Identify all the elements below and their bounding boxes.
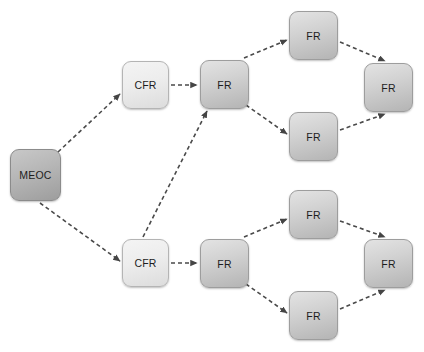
node-fr_b3[interactable]: FR <box>289 291 338 340</box>
edge-fr_t1-to-fr_t3 <box>246 105 287 134</box>
edge-fr_t2-to-fr_t4 <box>340 42 385 61</box>
node-fr_t4[interactable]: FR <box>364 63 413 112</box>
node-label: FR <box>381 82 395 94</box>
edge-fr_b1-to-fr_b2 <box>244 219 287 237</box>
node-fr_b1[interactable]: FR <box>200 239 249 288</box>
node-cfr_top[interactable]: CFR <box>122 61 169 109</box>
node-label: FR <box>217 79 231 91</box>
node-fr_t1[interactable]: FR <box>200 60 249 109</box>
node-label: MEOC <box>19 169 51 181</box>
node-label: FR <box>217 258 231 270</box>
edge-fr_t1-to-fr_t2 <box>244 40 287 58</box>
edge-meoc-to-cfr_bot <box>40 203 120 261</box>
node-label: FR <box>381 258 395 270</box>
node-label: FR <box>306 131 320 143</box>
edge-layer <box>0 0 424 352</box>
node-meoc[interactable]: MEOC <box>10 149 61 201</box>
edge-fr_t3-to-fr_t4 <box>340 114 385 130</box>
node-fr_t2[interactable]: FR <box>289 11 338 60</box>
node-label: FR <box>306 310 320 322</box>
node-label: FR <box>306 30 320 42</box>
edge-fr_b3-to-fr_b4 <box>340 290 385 309</box>
node-fr_t3[interactable]: FR <box>289 112 338 161</box>
node-fr_b2[interactable]: FR <box>289 190 338 239</box>
edge-cfr_bot-to-fr_t1 <box>143 111 207 237</box>
edge-fr_b1-to-fr_b3 <box>246 284 287 313</box>
node-cfr_bot[interactable]: CFR <box>122 239 169 287</box>
diagram-canvas: MEOCCFRFRFRFRFRCFRFRFRFRFR <box>0 0 424 352</box>
node-fr_b4[interactable]: FR <box>364 239 413 288</box>
node-label: FR <box>306 209 320 221</box>
node-label: CFR <box>134 79 156 91</box>
node-label: CFR <box>134 257 156 269</box>
edge-meoc-to-cfr_top <box>58 94 120 152</box>
edge-fr_b2-to-fr_b4 <box>340 221 385 237</box>
